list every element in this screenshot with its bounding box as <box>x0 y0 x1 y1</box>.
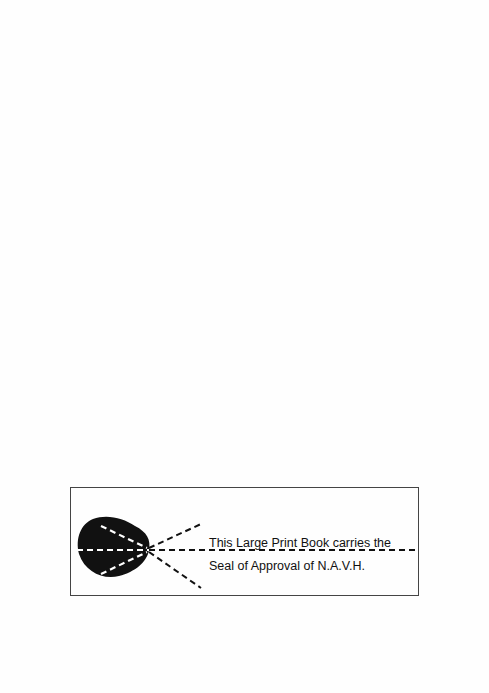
seal-text-line1: This Large Print Book carries the <box>209 536 391 550</box>
seal-text-line2: Seal of Approval of N.A.V.H. <box>209 559 365 573</box>
seal-of-approval-box: This Large Print Book carries the Seal o… <box>70 487 419 596</box>
book-page: This Large Print Book carries the Seal o… <box>0 0 489 693</box>
